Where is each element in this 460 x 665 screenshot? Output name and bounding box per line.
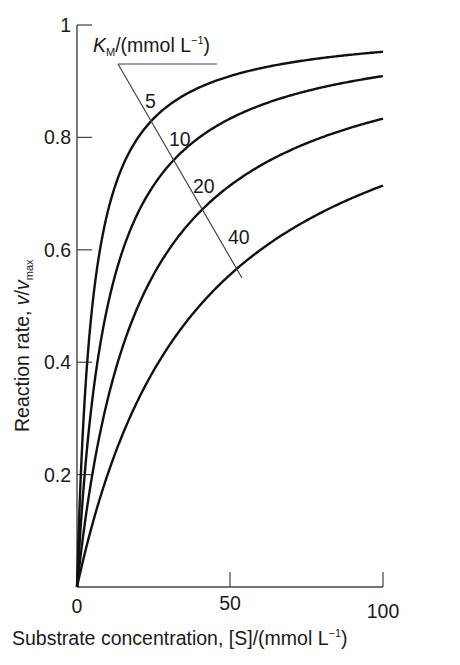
y-axis-title: Reaction rate, v/vmax — [11, 259, 35, 432]
legend-label-km-5: 5 — [145, 90, 156, 112]
y-tick-label: 0.8 — [44, 126, 71, 148]
y-tick-label: 0.2 — [44, 464, 71, 486]
legend-title: KM/(mmol L−1) — [93, 34, 210, 58]
y-tick-label: 1 — [60, 14, 71, 36]
legend-diagonal — [118, 64, 242, 278]
x-tick-label: 0 — [72, 595, 83, 617]
axes: 0.20.40.60.81050100 — [44, 14, 400, 622]
y-tick-label: 0.4 — [44, 351, 71, 373]
y-tick-label: 0.6 — [44, 239, 71, 261]
legend-label-km-10: 10 — [169, 128, 191, 150]
legend-label-km-40: 40 — [228, 226, 250, 248]
x-tick-label: 50 — [219, 592, 241, 614]
curves — [77, 52, 383, 587]
michaelis-menten-chart: 0.20.40.60.81050100 5102040 Substrate co… — [0, 0, 460, 665]
curve-km-10 — [77, 76, 383, 587]
x-tick-label: 100 — [367, 600, 400, 622]
x-axis-title: Substrate concentration, [S]/(mmol L−1) — [12, 627, 348, 649]
legend-label-km-20: 20 — [193, 175, 215, 197]
curve-km-20 — [77, 119, 383, 587]
